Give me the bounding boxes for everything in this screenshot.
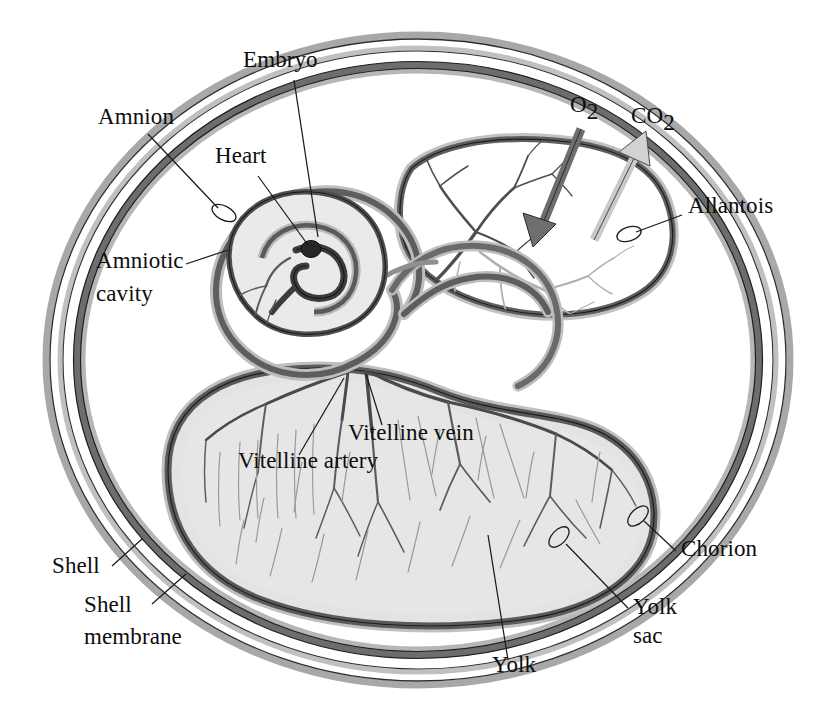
egg-diagram-canvas: Embryo Amnion Heart Amniotic cavity Alla… bbox=[0, 0, 829, 710]
label-chorion: Chorion bbox=[681, 536, 757, 561]
amnion-lasso bbox=[209, 201, 239, 226]
label-shell: Shell bbox=[52, 553, 100, 578]
label-o2: O2 bbox=[570, 92, 598, 124]
label-amniotic-cavity-line2: cavity bbox=[96, 281, 153, 306]
label-yolk-sac-line1: Yolk bbox=[633, 594, 677, 619]
amniote-egg-figure: Embryo Amnion Heart Amniotic cavity Alla… bbox=[0, 0, 829, 710]
heart-shape bbox=[301, 241, 321, 258]
label-yolk-sac-line2: sac bbox=[633, 623, 663, 648]
label-amniotic-cavity-line1: Amniotic bbox=[96, 248, 184, 273]
label-shell-membrane-line2: membrane bbox=[84, 624, 182, 649]
label-yolk: Yolk bbox=[492, 652, 536, 677]
label-co2-sub: 2 bbox=[663, 110, 675, 135]
yolk-sac-group bbox=[168, 368, 654, 626]
label-o2-sub: 2 bbox=[587, 99, 599, 124]
label-embryo: Embryo bbox=[243, 47, 318, 72]
label-heart: Heart bbox=[215, 143, 267, 168]
label-co2-base: CO bbox=[631, 103, 663, 128]
label-allantois: Allantois bbox=[688, 193, 773, 218]
label-vitelline-vein: Vitelline vein bbox=[348, 420, 474, 445]
label-vitelline-artery: Vitelline artery bbox=[238, 448, 378, 473]
label-shell-membrane-line1: Shell bbox=[84, 592, 132, 617]
label-amnion: Amnion bbox=[98, 104, 174, 129]
label-o2-base: O bbox=[570, 92, 587, 117]
